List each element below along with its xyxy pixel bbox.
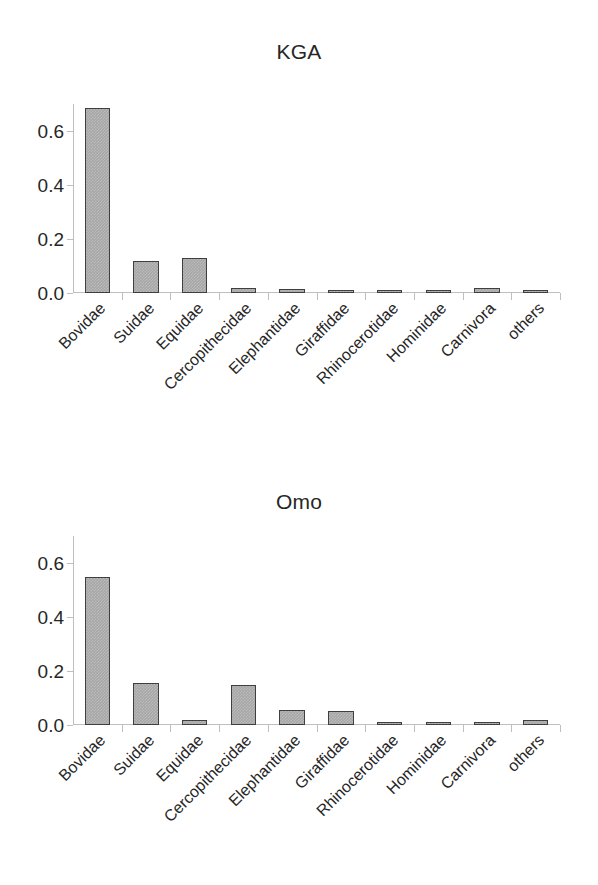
- bar-kga-3: [231, 288, 256, 293]
- bar-omo-7: [426, 722, 451, 725]
- bar-kga-7: [426, 290, 451, 293]
- y-tick-omo-0: [67, 725, 73, 726]
- bar-kga-9: [523, 290, 548, 293]
- bar-kga-1: [133, 261, 158, 293]
- bar-omo-9: [523, 720, 548, 725]
- x-tick-kga-2: [219, 293, 220, 300]
- bar-omo-0: [85, 577, 110, 725]
- bar-kga-2: [182, 258, 207, 293]
- bar-omo-2: [182, 720, 207, 725]
- chart-title-omo: Omo: [0, 490, 598, 514]
- bar-group-kga: [73, 104, 560, 293]
- y-tick-label-kga-3: 0.6: [38, 122, 64, 141]
- x-tick-omo-2: [219, 725, 220, 732]
- x-tick-kga-9: [560, 293, 561, 300]
- bar-omo-4: [279, 710, 304, 725]
- bar-omo-1: [133, 683, 158, 725]
- x-tick-omo-6: [414, 725, 415, 732]
- bar-kga-6: [377, 290, 402, 293]
- bar-omo-3: [231, 685, 256, 725]
- x-tick-kga-7: [463, 293, 464, 300]
- bar-omo-6: [377, 722, 402, 725]
- plot-area-omo: 0.00.20.40.6: [73, 536, 560, 725]
- x-tick-kga-5: [365, 293, 366, 300]
- y-tick-label-kga-1: 0.2: [38, 230, 64, 249]
- x-tick-kga-3: [268, 293, 269, 300]
- x-tick-omo-4: [317, 725, 318, 732]
- x-tick-kga-1: [170, 293, 171, 300]
- y-tick-label-omo-2: 0.4: [38, 608, 64, 627]
- x-tick-kga-4: [317, 293, 318, 300]
- chart-title-kga: KGA: [0, 40, 598, 64]
- x-tick-omo-1: [170, 725, 171, 732]
- y-tick-label-kga-0: 0.0: [38, 284, 64, 303]
- x-tick-omo-7: [463, 725, 464, 732]
- x-tick-omo-0: [122, 725, 123, 732]
- bar-omo-5: [328, 711, 353, 725]
- x-tick-omo-9: [560, 725, 561, 732]
- x-tick-kga-6: [414, 293, 415, 300]
- y-tick-label-omo-0: 0.0: [38, 716, 64, 735]
- y-tick-label-omo-3: 0.6: [38, 554, 64, 573]
- x-tick-omo-3: [268, 725, 269, 732]
- bar-group-omo: [73, 536, 560, 725]
- x-tick-omo-8: [511, 725, 512, 732]
- y-tick-label-kga-2: 0.4: [38, 176, 64, 195]
- bar-kga-8: [474, 288, 499, 293]
- x-tick-kga-8: [511, 293, 512, 300]
- bar-kga-4: [279, 289, 304, 293]
- bar-kga-0: [85, 108, 110, 293]
- y-tick-label-omo-1: 0.2: [38, 662, 64, 681]
- bar-kga-5: [328, 290, 353, 293]
- x-tick-kga-0: [122, 293, 123, 300]
- bar-omo-8: [474, 722, 499, 725]
- plot-area-kga: 0.00.20.40.6: [73, 104, 560, 293]
- y-tick-kga-0: [67, 293, 73, 294]
- x-tick-omo-5: [365, 725, 366, 732]
